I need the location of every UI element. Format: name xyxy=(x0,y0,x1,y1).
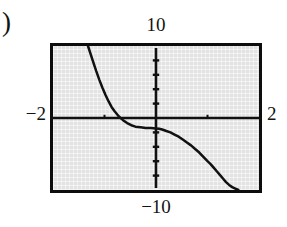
axis-label-y-min: −10 xyxy=(50,196,262,218)
plot-canvas xyxy=(50,43,262,193)
part-label: ) xyxy=(0,6,11,38)
calculator-screen xyxy=(50,43,262,193)
axis-label-x-max: 2 xyxy=(267,103,287,125)
axis-label-y-max: 10 xyxy=(50,14,262,36)
axes-group xyxy=(50,48,262,188)
figure-graph-panel: ) 10 −10 −2 2 xyxy=(0,0,287,227)
axis-label-x-min: −2 xyxy=(8,103,46,125)
